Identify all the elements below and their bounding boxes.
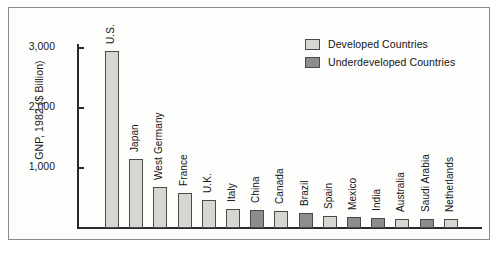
bar	[323, 216, 337, 228]
chart-frame: GNP, 1982 ($ Billion) 3,0002,0001,000 U.…	[8, 7, 490, 240]
bar-category-label: Italy	[226, 183, 237, 202]
legend-label: Developed Countries	[328, 38, 428, 50]
legend-item: Developed Countries	[305, 38, 455, 50]
bar	[444, 219, 458, 228]
bar-category-label: France	[178, 154, 189, 186]
bar-group: West Germany	[153, 29, 167, 228]
bar-category-label: Netherlands	[444, 157, 455, 212]
legend-swatch	[305, 39, 320, 50]
bar	[371, 218, 385, 228]
bar	[250, 210, 264, 228]
bar-category-label: China	[250, 176, 261, 203]
legend-item: Underdeveloped Countries	[305, 56, 455, 68]
bar-group: Japan	[129, 29, 143, 228]
bar-group: China	[250, 29, 264, 228]
bar-category-label: Canada	[275, 168, 286, 204]
y-axis-tick-label: 1,000	[9, 160, 55, 172]
bar-category-label: India	[371, 189, 382, 211]
bar-category-label: Brazil	[299, 180, 310, 206]
legend-swatch	[305, 57, 320, 68]
bar	[347, 217, 361, 228]
bar-category-label: Spain	[323, 183, 334, 209]
y-axis-tick-label: 3,000	[9, 40, 55, 52]
bar-category-label: Australia	[396, 172, 407, 212]
bar-group: France	[178, 29, 192, 228]
bar-category-label: Mexico	[347, 178, 358, 210]
bar-category-label: U.S.	[105, 24, 116, 44]
bar	[226, 209, 240, 229]
bar-category-label: Saudi Arabia	[420, 154, 431, 212]
bar	[178, 193, 192, 228]
bar	[274, 211, 288, 228]
bar-group: Canada	[274, 29, 288, 228]
bar	[299, 213, 313, 228]
chart-legend: Developed CountriesUnderdeveloped Countr…	[305, 38, 455, 74]
y-axis-tick-label: 2,000	[9, 100, 55, 112]
bar	[202, 200, 216, 228]
bar-category-label: U.K.	[202, 173, 213, 193]
bar-category-label: West Germany	[154, 112, 165, 180]
bar-group: Italy	[226, 29, 240, 228]
bar-group: U.S.	[105, 29, 119, 228]
bar	[129, 159, 143, 228]
bar-category-label: Japan	[129, 124, 140, 152]
bar	[420, 219, 434, 228]
bar-group: U.K.	[202, 29, 216, 228]
bar	[105, 51, 119, 228]
bar	[153, 187, 167, 228]
legend-label: Underdeveloped Countries	[328, 56, 455, 68]
bar	[395, 219, 409, 228]
